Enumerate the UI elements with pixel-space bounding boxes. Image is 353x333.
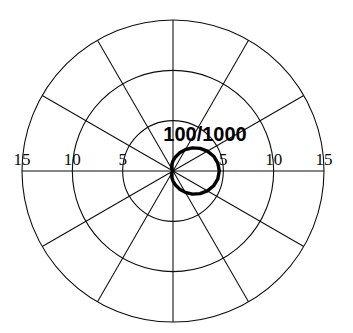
radial-tick-left-5: 5 — [118, 150, 127, 169]
radial-tick-left-15: 15 — [14, 150, 31, 169]
polar-plot-canvas: 1510551015 100/1000 — [0, 0, 353, 333]
polar-chart-figure: 1510551015 100/1000 — [0, 0, 353, 333]
radial-tick-right-15: 15 — [316, 150, 333, 169]
radial-tick-right-10: 10 — [265, 150, 282, 169]
radial-tick-left-10: 10 — [64, 150, 81, 169]
center-annotation-label: 100/1000 — [163, 123, 246, 145]
radial-tick-right-5: 5 — [219, 150, 228, 169]
figure-background — [0, 0, 353, 333]
